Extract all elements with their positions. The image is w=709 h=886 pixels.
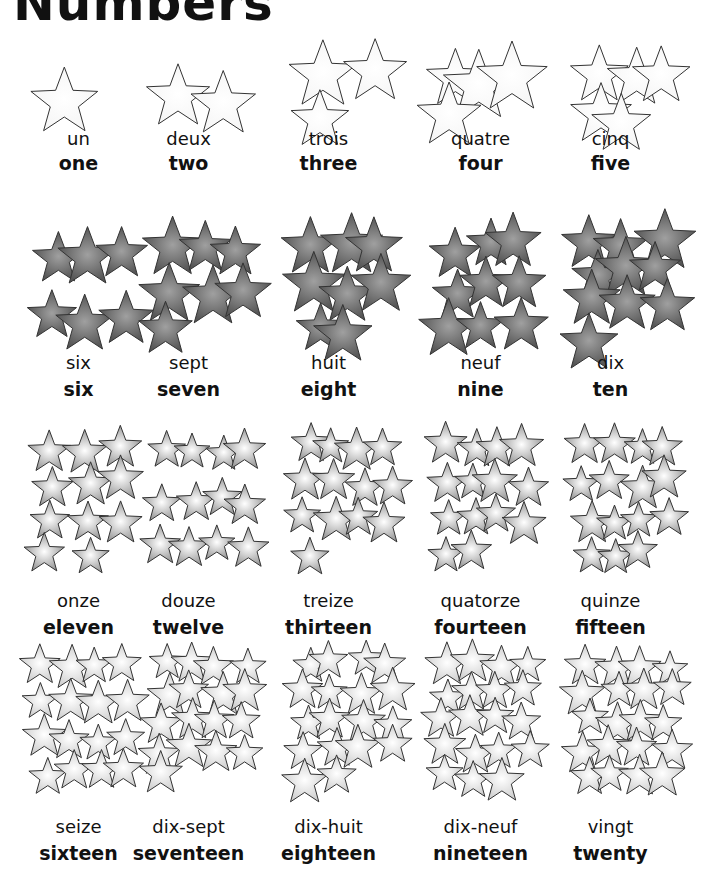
english-word: eight	[258, 378, 399, 400]
french-word: huit	[258, 352, 399, 373]
english-word: three	[258, 152, 399, 174]
english-word: twenty	[540, 842, 681, 864]
star-cluster-icon	[120, 400, 270, 600]
french-word: sept	[118, 352, 259, 373]
french-word: treize	[258, 590, 399, 611]
star-cluster-icon	[400, 400, 550, 600]
french-word: vingt	[540, 816, 681, 837]
french-word: neuf	[410, 352, 551, 373]
star-cluster-icon	[542, 620, 692, 820]
star-cluster-icon	[262, 18, 412, 218]
star-cluster-icon	[120, 18, 270, 218]
french-word: dix-neuf	[410, 816, 551, 837]
french-word: cinq	[540, 128, 681, 149]
english-word: eighteen	[258, 842, 399, 864]
french-word: quatre	[410, 128, 551, 149]
french-word: douze	[118, 590, 259, 611]
star-cluster-icon	[542, 18, 692, 218]
english-word: nine	[410, 378, 551, 400]
english-word: ten	[540, 378, 681, 400]
star-cluster-icon	[400, 18, 550, 218]
french-word: deux	[118, 128, 259, 149]
star-cluster-icon	[542, 400, 692, 600]
star-cluster-icon	[120, 620, 270, 820]
french-word: quinze	[540, 590, 681, 611]
french-word: dix-sept	[118, 816, 259, 837]
english-word: two	[118, 152, 259, 174]
star-cluster-icon	[262, 400, 412, 600]
english-word: seven	[118, 378, 259, 400]
french-word: quatorze	[410, 590, 551, 611]
star-cluster-icon	[262, 620, 412, 820]
french-word: dix	[540, 352, 681, 373]
french-word: trois	[258, 128, 399, 149]
english-word: five	[540, 152, 681, 174]
english-word: nineteen	[410, 842, 551, 864]
french-word: dix-huit	[258, 816, 399, 837]
english-word: seventeen	[118, 842, 259, 864]
star-cluster-icon	[400, 620, 550, 820]
english-word: four	[410, 152, 551, 174]
